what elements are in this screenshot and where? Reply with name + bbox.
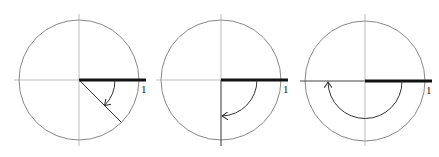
angle-arc <box>105 80 116 106</box>
angle-arc <box>222 80 257 116</box>
unit-label: 1 <box>141 83 147 95</box>
unit-circle-diagrams: 1 1 1 <box>0 0 439 157</box>
unit-label: 1 <box>283 83 289 95</box>
terminal-side <box>79 80 121 122</box>
panel-angle-minus-180: 1 <box>300 14 432 146</box>
panel-angle-minus-45: 1 <box>14 14 147 146</box>
unit-label: 1 <box>426 84 432 96</box>
panel-angle-minus-90: 1 <box>156 14 289 146</box>
